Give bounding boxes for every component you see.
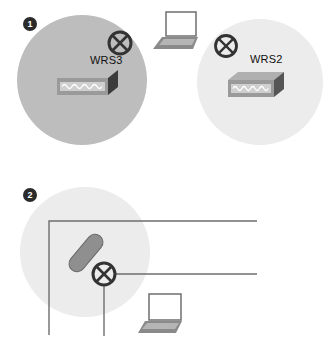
access-point-symbol-icon xyxy=(93,263,115,285)
wireless-roaming-diagram: WRS3 WRS2 1 2 xyxy=(0,0,328,360)
laptop-icon xyxy=(153,12,198,49)
step-badge-1: 1 xyxy=(23,17,37,31)
router-wrs2-icon xyxy=(228,72,284,97)
router-label-wrs2: WRS2 xyxy=(250,53,283,65)
step-badge-2: 2 xyxy=(23,188,37,202)
laptop-icon xyxy=(138,294,182,333)
router-label-wrs3: WRS3 xyxy=(90,54,123,66)
